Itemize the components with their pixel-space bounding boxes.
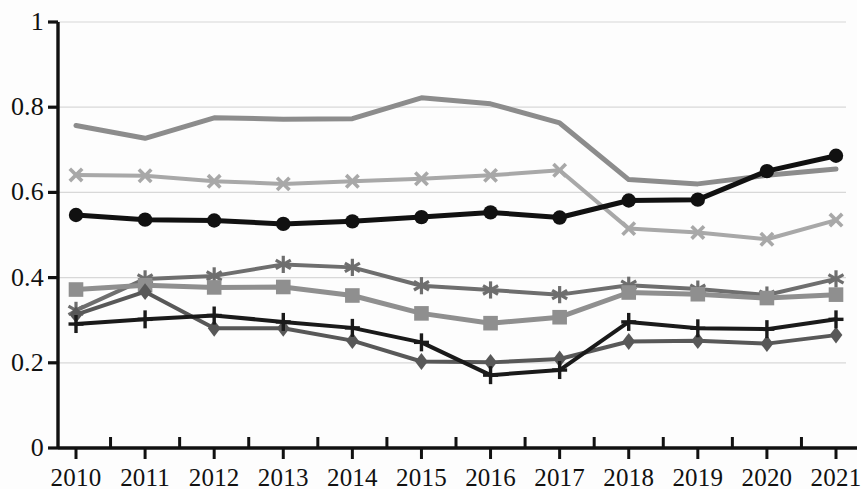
y-tick-label: 0.6	[11, 177, 44, 207]
series-line	[76, 316, 836, 376]
x-tick-label: 2010	[51, 464, 102, 489]
x-tick-label: 2016	[465, 464, 516, 489]
x-tick-label: 2013	[258, 464, 309, 489]
plot-area	[69, 98, 844, 384]
x-tick-label: 2018	[603, 464, 654, 489]
y-tick-label: 1	[31, 7, 44, 37]
x-tick-label: 2015	[396, 464, 447, 489]
x-tick-label: 2011	[120, 464, 170, 489]
series-line	[76, 98, 836, 184]
x-tick-label: 2019	[672, 464, 723, 489]
x-tick-label: 2020	[742, 464, 793, 489]
x-tick-label: 2021	[811, 464, 861, 489]
series-2	[70, 164, 842, 245]
tick-marks	[48, 22, 836, 459]
y-tick-label: 0.2	[11, 348, 44, 378]
x-tick-label: 2014	[327, 464, 378, 489]
series-1	[76, 98, 836, 184]
y-tick-label: 0.8	[11, 92, 44, 122]
series-line	[76, 156, 836, 224]
x-tick-label: 2012	[189, 464, 240, 489]
x-tick-label: 2017	[534, 464, 585, 489]
y-tick-label: 0.4	[11, 263, 44, 293]
y-tick-label: 0	[31, 433, 44, 463]
series-3	[69, 149, 843, 232]
